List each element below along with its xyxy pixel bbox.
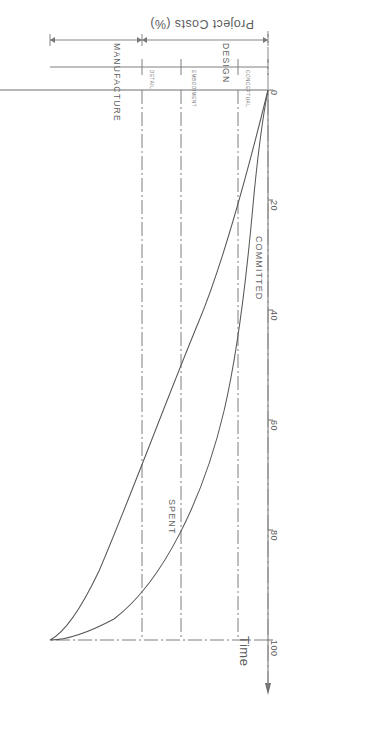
- y-axis-title: Project Costs (%): [150, 17, 254, 31]
- ytick-label-80: 80: [269, 530, 279, 541]
- ytick-label-40: 40: [269, 310, 279, 321]
- rotated-figure: 0 20 40 60 80 100 Project Costs (%) Time…: [0, 0, 374, 731]
- chart-canvas: 0 20 40 60 80 100 Project Costs (%) Time…: [0, 0, 374, 731]
- phase-label-embodiment: EMBODIMENT: [191, 70, 196, 107]
- cost-axis-ticks: [268, 90, 273, 640]
- phase-label-detail: DETAIL: [149, 70, 154, 89]
- curve-label-committed: COMMITTED: [254, 236, 264, 300]
- ytick-label-20: 20: [269, 200, 279, 211]
- curve-committed: [50, 90, 268, 640]
- inner-phase-brackets: [50, 59, 268, 75]
- phase-label-design: DESIGN: [221, 43, 231, 83]
- ytick-label-60: 60: [269, 420, 279, 431]
- curve-label-spent: SPENT: [167, 499, 177, 535]
- outer-phase-brackets: [50, 34, 268, 46]
- x-axis-title: Time: [237, 636, 252, 666]
- phase-label-conceptual: CONCEPTUAL: [245, 70, 250, 107]
- chart-vector-layer: [0, 0, 374, 731]
- phase-label-manufacture: MANUFACTURE: [112, 43, 122, 122]
- ytick-label-100: 100: [269, 640, 279, 657]
- curve-spent: [50, 90, 268, 640]
- ytick-label-0: 0: [269, 90, 279, 96]
- phase-gridlines: [142, 90, 238, 640]
